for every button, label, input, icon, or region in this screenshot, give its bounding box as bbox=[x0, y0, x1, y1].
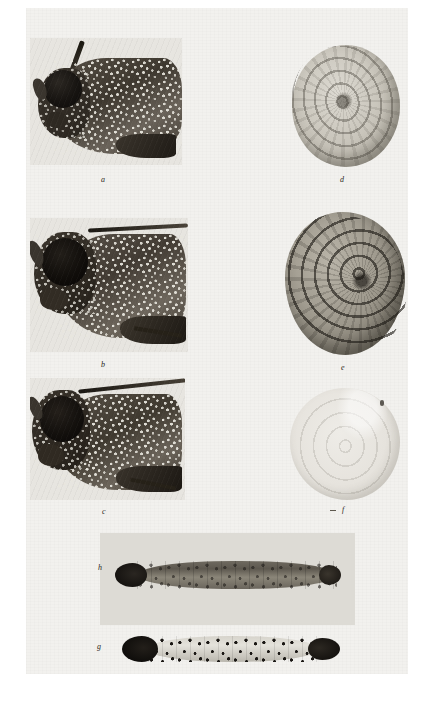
figure-panel-h bbox=[115, 558, 341, 592]
figure-panel-b bbox=[30, 218, 188, 352]
figure-panel-d bbox=[288, 42, 404, 170]
cocoon-e-core bbox=[285, 212, 405, 355]
figure-panel-f bbox=[288, 386, 402, 502]
figure-panel-c bbox=[30, 378, 185, 500]
figure-caption-a: a bbox=[101, 176, 105, 184]
cocoon-d bbox=[292, 45, 400, 167]
panel-b-film-grain bbox=[30, 218, 188, 352]
figure-caption-b: b bbox=[101, 361, 105, 369]
figure-panel-g bbox=[122, 634, 340, 664]
figure-caption-f: f bbox=[342, 506, 344, 514]
figure-panel-e bbox=[283, 210, 407, 357]
figure-f-tick-mark bbox=[330, 510, 336, 511]
cocoon-f-dark-fleck bbox=[380, 400, 384, 406]
cocoon-e bbox=[285, 212, 405, 355]
figure-caption-g: g bbox=[97, 643, 101, 651]
panel-c-film-grain bbox=[30, 378, 185, 500]
larva-g-head-capsule bbox=[122, 636, 158, 662]
larva-h-body bbox=[137, 561, 337, 589]
larva-h-pinacula bbox=[137, 561, 337, 589]
figure-plate: a d b e bbox=[0, 0, 433, 714]
larva-h-head-capsule bbox=[115, 563, 147, 587]
figure-caption-e: e bbox=[341, 364, 345, 372]
larva-g-body bbox=[148, 636, 318, 662]
figure-panel-a bbox=[30, 38, 182, 165]
larva-g-pinacula bbox=[148, 636, 318, 662]
panel-a-film-grain bbox=[30, 38, 182, 165]
figure-caption-c: c bbox=[102, 508, 106, 516]
larva-g-anal-plate bbox=[308, 638, 340, 660]
figure-caption-d: d bbox=[340, 176, 344, 184]
cocoon-d-core bbox=[292, 45, 400, 167]
figure-caption-h: h bbox=[98, 564, 102, 572]
larva-h-anal-plate bbox=[319, 565, 341, 585]
